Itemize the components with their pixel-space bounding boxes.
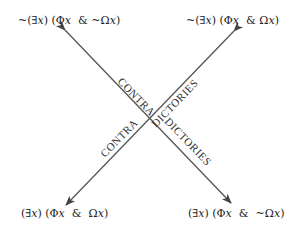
label-contra-upper: CONTRA: [116, 75, 158, 118]
formula-bottom-left: (∃x) (Φx & Ωx): [21, 207, 108, 220]
formula-top-right: ~(∃x) (Φx & Ωx): [186, 14, 279, 27]
label-dictories-lower: DICTORIES: [163, 115, 215, 168]
formula-bottom-right: (∃x) (Φx & ~Ωx): [188, 207, 284, 220]
formula-top-left: ~(∃x) (Φx & ~Ωx): [18, 14, 120, 27]
contradictories-diagram: ~(∃x) (Φx & ~Ωx) ~(∃x) (Φx & Ωx) (∃x) (Φ…: [0, 0, 306, 233]
label-contra-lower: CONTRA: [98, 116, 140, 159]
